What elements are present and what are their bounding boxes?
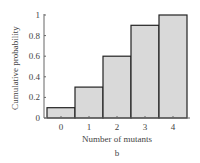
bar-2 xyxy=(103,56,131,118)
x-tick-label: 1 xyxy=(87,122,92,132)
bars xyxy=(47,15,187,118)
y-tick-label: 0.8 xyxy=(29,31,41,41)
x-tick-label: 2 xyxy=(115,122,120,132)
y-axis-title: Cumulative probability xyxy=(10,26,20,110)
x-tick-label: 4 xyxy=(171,122,176,132)
y-tick-label: 1 xyxy=(36,10,41,20)
bar-3 xyxy=(131,25,159,118)
y-axis-ticks: 00.20.40.60.81 xyxy=(29,10,46,123)
y-tick-label: 0.4 xyxy=(29,72,41,82)
x-axis-title: Number of mutants xyxy=(82,134,152,144)
x-tick-label: 3 xyxy=(143,122,148,132)
panel-label: b xyxy=(115,148,120,158)
cumulative-probability-chart: 00.20.40.60.81 01234 Cumulative probabil… xyxy=(0,0,200,163)
x-tick-label: 0 xyxy=(59,122,64,132)
bar-1 xyxy=(75,87,103,118)
y-tick-label: 0.2 xyxy=(29,92,40,102)
y-tick-label: 0 xyxy=(36,113,41,123)
y-tick-label: 0.6 xyxy=(29,51,41,61)
bar-4 xyxy=(159,15,187,118)
